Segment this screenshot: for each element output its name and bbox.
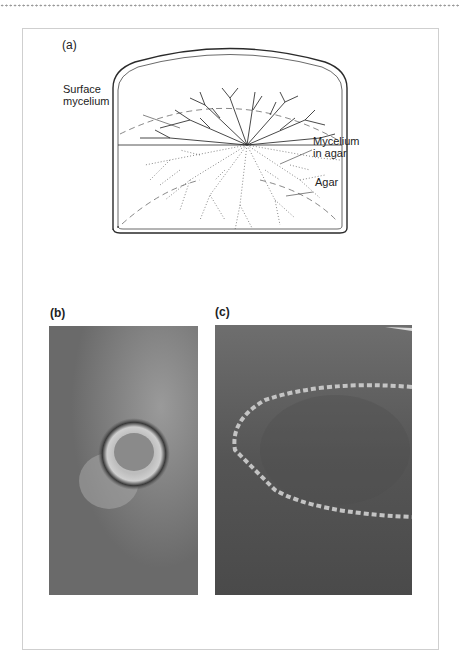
callout-agar: Agar [315,176,338,188]
callout-surface-line1: Surface [63,83,109,95]
callout-myc-agar-line1: Mycelium [313,135,359,147]
callout-mycelium-in-agar: Mycelium in agar [313,135,359,159]
fungal-colony-photo [49,326,198,595]
callout-surface-mycelium: Surface mycelium [63,83,109,107]
panel-c-label: (c) [215,305,230,319]
fairy-ring-photo [215,325,412,595]
top-dotted-rule [0,4,459,7]
callout-myc-agar-line2: in agar [313,147,359,159]
callout-surface-line2: mycelium [63,95,109,107]
petri-dish-diagram [40,30,420,260]
panel-b-label: (b) [50,306,65,320]
